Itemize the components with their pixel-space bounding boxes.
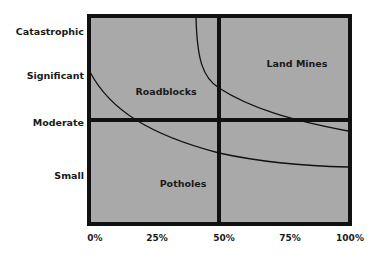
y-label-moderate: Moderate (33, 117, 84, 128)
y-label-catastrophic: Catastrophic (16, 26, 84, 37)
quadrant-plot (0, 0, 373, 264)
x-label-75: 75% (279, 233, 301, 243)
y-label-significant: Significant (27, 70, 84, 81)
x-label-25: 25% (146, 233, 168, 243)
quadrant-land-mines: Land Mines (267, 58, 328, 69)
x-label-100: 100% (336, 233, 364, 243)
x-label-0: 0% (87, 233, 102, 243)
quadrant-potholes: Potholes (160, 178, 207, 189)
x-label-50: 50% (213, 233, 235, 243)
y-label-small: Small (54, 170, 84, 181)
quadrant-roadblocks: Roadblocks (135, 86, 196, 97)
